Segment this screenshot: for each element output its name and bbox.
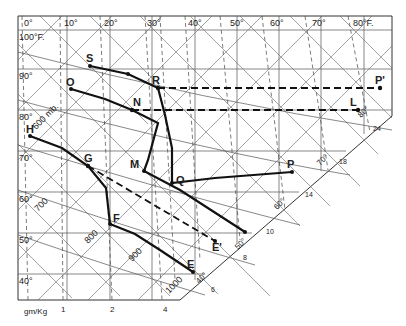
point-label-s: S [86,52,93,64]
bottom-label: 4 [163,305,168,314]
point-label-n: N [133,96,141,108]
edge-temp-label: 70° [315,152,330,167]
data-points [28,64,382,274]
sounding-paths [30,66,292,272]
top-label: 20° [104,18,118,28]
top-label: 10° [64,18,78,28]
edge-temp-label: 80° [356,104,371,119]
top-label: 60° [270,18,284,28]
point-label-p-prime: P' [375,74,385,86]
point-label-g: G [84,152,93,164]
left-axis-labels: 100°F. 90° 80° 70° 60° 50° 40° [19,32,45,286]
edge-label: 8 [243,254,247,261]
point-label-l: L [350,96,357,108]
edge-label: 10 [266,228,274,235]
top-label: 70° [312,18,326,28]
left-label: 60° [19,194,33,204]
point-label-o: O [66,76,75,88]
point-label-e: E [187,258,194,270]
bottom-unit-label: gm/Kg [24,307,47,316]
point-label-m: M [130,158,139,170]
left-label: 70° [19,153,33,163]
bottom-axis-labels: gm/Kg 1 2 4 [24,305,168,316]
left-label: 40° [19,276,33,286]
top-label: 0° [24,18,33,28]
left-label: 50° [19,235,33,245]
pressure-label: 600 mb. [30,101,60,131]
pressure-label: 1000 [163,274,184,295]
point-label-r: R [152,74,160,86]
point-label-f: F [113,212,120,224]
top-label: 30° [147,18,161,28]
top-axis-labels: 0° 10° 20° 30° 40° 50° 60° 70° 80°F. [24,18,374,28]
chart-frame [18,16,392,300]
left-label: 90° [19,71,33,81]
diagonal-edge-labels: 6 8 10 14 18 24 [211,125,381,293]
pressure-label: 900 [126,246,144,264]
edge-temp-labels: 40° 50° 60° 70° 80° [194,104,371,285]
edge-label: 24 [373,125,381,132]
top-label: 40° [188,18,202,28]
point-label-e-prime: E' [212,241,222,253]
top-label: 80°F. [353,18,374,28]
thermodynamic-diagram: S R P' O N L H G M Q P F E' E 0° 10° 20°… [0,0,406,326]
point-label-q: Q [176,174,185,186]
diagonal-lines [18,16,392,300]
left-label: 80° [19,112,33,122]
bottom-label: 2 [110,305,115,314]
left-label: 100°F. [19,32,45,42]
edge-label: 18 [339,158,347,165]
top-label: 50° [230,18,244,28]
point-label-p: P [287,158,294,170]
edge-label: 14 [305,191,313,198]
pressure-label: 800 [82,228,100,246]
edge-label: 6 [211,286,215,293]
bottom-label: 1 [61,305,66,314]
edge-temp-label: 40° [194,270,209,285]
edge-temp-label: 50° [233,236,248,251]
